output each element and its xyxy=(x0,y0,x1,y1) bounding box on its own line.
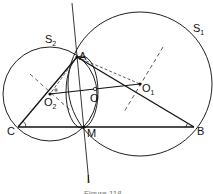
figure-caption: Figure 118 xyxy=(84,189,122,194)
label-o1: O1 xyxy=(142,82,155,96)
point-o xyxy=(93,87,96,90)
angle-mark-c xyxy=(23,121,26,127)
label-m: M xyxy=(87,127,96,139)
label-l: l xyxy=(87,173,89,185)
point-m xyxy=(82,125,85,128)
label-a: A xyxy=(79,50,87,62)
label-o: O xyxy=(90,92,99,104)
label-s2: S2 xyxy=(45,33,56,47)
point-small-near-o2 xyxy=(55,89,57,91)
dashed-a-o1 xyxy=(77,57,140,84)
line-l xyxy=(72,3,89,183)
label-o2: O2 xyxy=(44,96,57,110)
dashed-a-o2 xyxy=(50,57,77,94)
label-s1: S1 xyxy=(193,22,204,36)
label-b: B xyxy=(197,125,204,137)
label-c: C xyxy=(7,125,15,137)
geometry-figure: A B C M O O1 O2 S1 S2 l Figure 118 xyxy=(0,0,213,194)
